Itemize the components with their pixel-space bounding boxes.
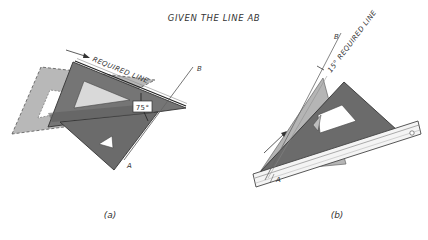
figure-title: GIVEN THE LINE AB	[168, 13, 261, 23]
figure-b: 15° REQUIRED LINE B A (b)	[253, 9, 421, 220]
point-b-label-a: B	[197, 65, 202, 73]
hanging-hole-icon	[410, 131, 414, 135]
svg-text:75°: 75°	[136, 104, 150, 112]
drawing-canvas: GIVEN THE LINE AB	[0, 0, 428, 240]
arrow-icon	[66, 50, 90, 58]
figure-a: 75° REQUIRED LINE A B (a)	[12, 50, 202, 220]
dark-triangle-lower-a	[60, 112, 158, 170]
required-line-label-b: 15° REQUIRED LINE	[326, 9, 378, 75]
point-b-label-b: B	[334, 33, 339, 41]
caption-a: (a)	[104, 210, 117, 220]
point-a-label-b: A	[275, 176, 281, 184]
caption-b: (b)	[331, 210, 344, 220]
point-a-label-a: A	[126, 162, 132, 170]
